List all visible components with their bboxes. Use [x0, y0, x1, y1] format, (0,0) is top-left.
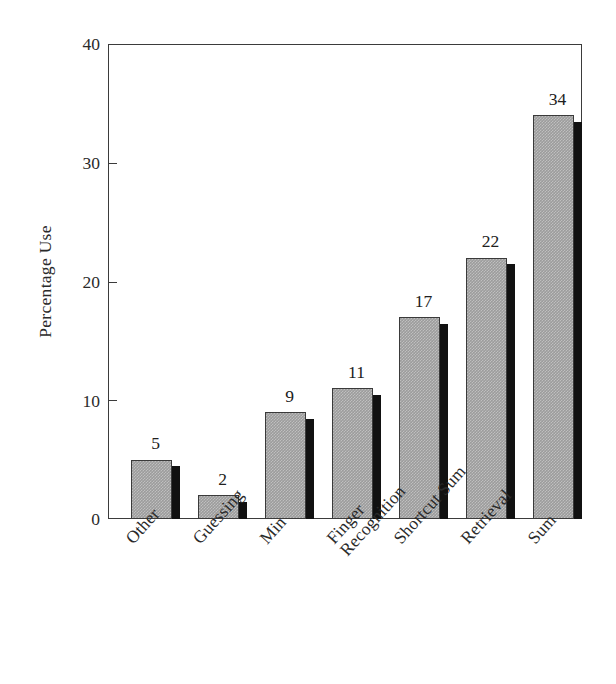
x-axis-tick-label-sum: Sum	[524, 511, 559, 547]
x-axis-tick-label-retrieval: Retrieval	[457, 486, 515, 547]
x-axis-tick-label-retrieval-line1: Retrieval	[456, 485, 515, 547]
x-axis-tick-label-other-line1: Other	[121, 504, 163, 548]
x-axis-tick-label-min-line1: Min	[255, 512, 290, 548]
x-axis-tick-label-min: Min	[256, 513, 289, 547]
bar-chart-figure: Percentage Use 40 30 20 10 0 5 2 9	[0, 0, 616, 684]
x-axis-tick-label-other: Other	[122, 505, 163, 548]
x-axis-tick-label-guessing-line1: Guessing	[188, 485, 248, 548]
x-axis-tick-label-guessing: Guessing	[189, 485, 247, 547]
x-axis-tick-label-sum-line1: Sum	[523, 510, 560, 548]
x-axis-tick-labels: Other Guessing Min Finger Recognition Sh…	[0, 0, 616, 684]
x-axis-tick-label-finger-recognition: Finger Recognition	[323, 470, 409, 560]
